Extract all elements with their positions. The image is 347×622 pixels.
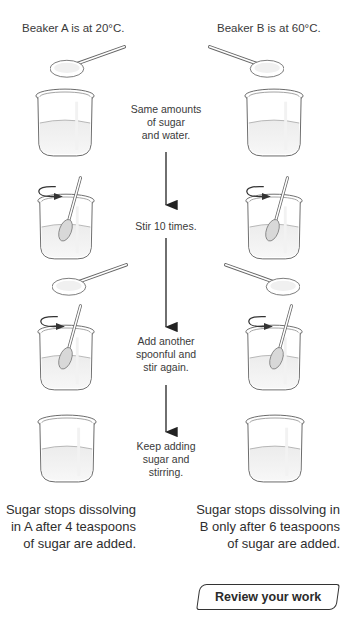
beaker-b-step3 [226, 265, 302, 390]
beaker-b-step4 [246, 415, 304, 482]
step-4-text: Keep adding sugar and stirring. [121, 440, 211, 479]
beaker-a-step2 [38, 178, 94, 259]
conclusion-b: Sugar stops dissolving in B only after 6… [180, 501, 340, 552]
beaker-a-step4 [38, 415, 96, 482]
beaker-a-step1 [36, 47, 124, 156]
conclusion-a: Sugar stops dissolving in A after 4 teas… [2, 501, 136, 552]
step-1-text: Same amounts of sugar and water. [121, 103, 211, 142]
beaker-a-step3 [38, 265, 126, 390]
review-your-work-button[interactable]: Review your work [196, 584, 340, 610]
step-3-text: Add another spoonful and stir again. [121, 335, 211, 374]
beaker-b-step2 [246, 178, 302, 259]
beaker-b-step1 [210, 47, 303, 156]
step-2-text: Stir 10 times. [121, 220, 211, 233]
